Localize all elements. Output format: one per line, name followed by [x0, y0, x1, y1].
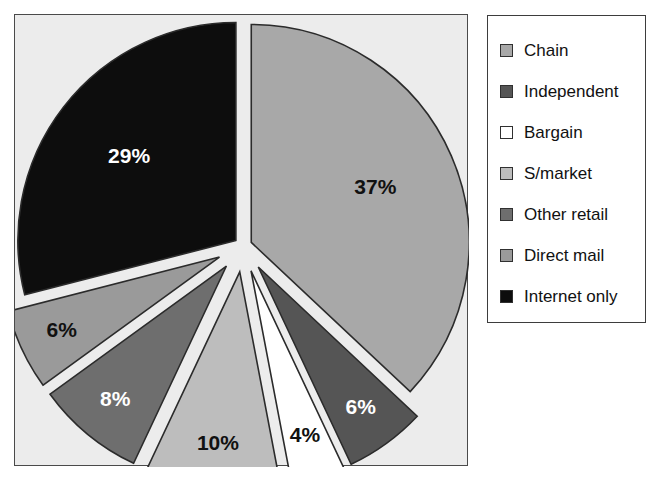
legend-swatch-icon	[500, 85, 513, 98]
legend-item-label: Internet only	[524, 288, 618, 305]
legend-item[interactable]: S/market	[488, 153, 645, 194]
pie-svg: 37%6%4%10%8%6%29%	[15, 15, 469, 467]
legend-item[interactable]: Bargain	[488, 112, 645, 153]
legend-item[interactable]: Other retail	[488, 194, 645, 235]
legend-swatch-icon	[500, 167, 513, 180]
legend-swatch-icon	[500, 290, 513, 303]
pie-slice-label: 8%	[100, 387, 131, 410]
legend: ChainIndependentBargainS/marketOther ret…	[487, 15, 646, 323]
legend-item[interactable]: Chain	[488, 30, 645, 71]
legend-item-label: Independent	[524, 83, 619, 100]
pie-slice-label: 29%	[108, 144, 150, 167]
legend-swatch-icon	[500, 126, 513, 139]
legend-item-label: S/market	[524, 165, 592, 182]
pie-slices-group	[15, 22, 469, 467]
legend-swatch-icon	[500, 249, 513, 262]
pie-slice[interactable]	[251, 24, 469, 391]
pie-chart-figure: 37%6%4%10%8%6%29% ChainIndependentBargai…	[0, 0, 656, 492]
pie-slice-label: 37%	[354, 175, 396, 198]
legend-item-label: Other retail	[524, 206, 608, 223]
legend-swatch-icon	[500, 208, 513, 221]
pie-slice-label: 6%	[47, 318, 78, 341]
pie-slice-label: 6%	[346, 395, 377, 418]
legend-item-label: Chain	[524, 42, 568, 59]
legend-swatch-icon	[500, 44, 513, 57]
pie-slice-label: 10%	[197, 431, 239, 454]
legend-item[interactable]: Internet only	[488, 276, 645, 317]
legend-item[interactable]: Direct mail	[488, 235, 645, 276]
legend-item[interactable]: Independent	[488, 71, 645, 112]
plot-area: 37%6%4%10%8%6%29%	[14, 14, 468, 466]
legend-item-label: Bargain	[524, 124, 583, 141]
pie-slice-label: 4%	[290, 423, 321, 446]
legend-item-label: Direct mail	[524, 247, 604, 264]
